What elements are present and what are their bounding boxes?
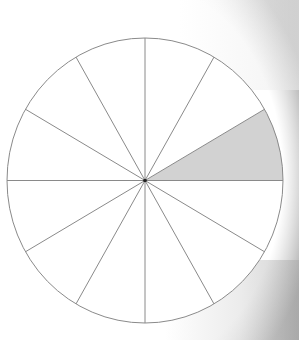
fraction-circle-diagram bbox=[0, 0, 299, 340]
page-background bbox=[0, 0, 299, 340]
center-point bbox=[143, 179, 147, 183]
